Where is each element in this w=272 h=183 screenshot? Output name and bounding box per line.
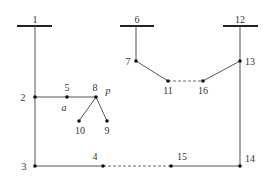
- label-5: 5: [65, 82, 70, 93]
- node-3: [33, 164, 37, 168]
- label-2: 2: [21, 92, 26, 103]
- node-7: [134, 59, 138, 63]
- node-13: [238, 59, 242, 63]
- node-14: [238, 164, 242, 168]
- label-13: 13: [245, 56, 255, 67]
- annotation-p: p: [105, 85, 111, 96]
- label-8: 8: [93, 82, 98, 93]
- node-15: [169, 164, 173, 168]
- node-11: [166, 79, 170, 83]
- node-16: [201, 79, 205, 83]
- label-14: 14: [245, 153, 255, 164]
- node-4: [101, 164, 105, 168]
- line-8-9: [96, 97, 107, 121]
- line-16-13: [203, 61, 240, 81]
- node-2: [33, 95, 37, 99]
- label-4: 4: [93, 151, 98, 162]
- label-15: 15: [177, 151, 187, 162]
- label-6: 6: [135, 14, 140, 25]
- node-5: [65, 95, 69, 99]
- label-12: 12: [235, 14, 245, 25]
- label-16: 16: [198, 85, 208, 96]
- network-diagram: 1 6 12 2 3 4 5 7 8 9 10 11 13 14 15 16 a…: [0, 0, 272, 183]
- line-8-10: [79, 97, 96, 121]
- label-11: 11: [163, 85, 173, 96]
- node-9: [105, 119, 109, 123]
- label-1: 1: [33, 14, 38, 25]
- label-3: 3: [22, 161, 27, 172]
- node-8: [94, 95, 98, 99]
- label-9: 9: [105, 125, 110, 136]
- label-7: 7: [126, 56, 131, 67]
- annotation-a: a: [62, 102, 67, 113]
- label-10: 10: [75, 125, 85, 136]
- line-7-11: [136, 61, 168, 81]
- node-10: [77, 119, 81, 123]
